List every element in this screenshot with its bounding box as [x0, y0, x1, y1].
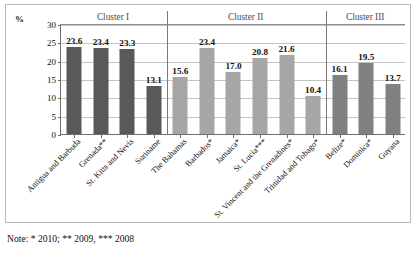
bar-value-label: 15.6 [172, 66, 188, 76]
y-axis-unit-label: % [15, 14, 24, 24]
x-axis-category-label-text: Guyana [376, 137, 401, 162]
cluster-header-3: Cluster III [325, 11, 405, 25]
bar-value-label: 17.0 [225, 61, 241, 71]
x-axis-category-label-text: St. Kitts and Nevis [85, 137, 136, 188]
bar-value-label: 20.8 [252, 47, 268, 57]
bar-value-label: 19.5 [358, 52, 374, 62]
bar[interactable] [67, 47, 82, 134]
y-axis-tick-label: 25 [47, 38, 56, 48]
bar-value-label: 23.4 [199, 37, 215, 47]
y-axis-tick-label: 20 [47, 57, 56, 67]
bar-slot: 23.6 [61, 25, 88, 134]
x-axis-category-label-text: Belize* [324, 137, 348, 161]
cluster-header-2: Cluster II [166, 11, 325, 25]
cluster-header-1: Cluster I [60, 11, 166, 25]
bar-value-label: 13.7 [385, 73, 401, 83]
x-axis-label-group: Antigua and BarbudaGrenada**St. Kitts an… [60, 137, 405, 221]
bar-value-label: 10.4 [305, 85, 321, 95]
bar-value-label: 21.6 [279, 44, 295, 54]
cluster-header-band: Cluster ICluster IICluster III [60, 11, 405, 25]
y-axis-tick-label: 5 [52, 112, 57, 122]
y-axis-tick-label: 0 [52, 130, 57, 140]
y-axis-tick-label: 15 [47, 75, 56, 85]
bar-value-label: 23.6 [66, 36, 82, 46]
y-axis-tick-mark [58, 135, 61, 136]
figure-note: Note: * 2010; ** 2009, *** 2008 [7, 233, 134, 244]
bar-value-label: 16.1 [332, 64, 348, 74]
chart-figure: % Cluster ICluster IICluster III 0510152… [5, 4, 411, 223]
bar-value-label: 13.1 [146, 75, 162, 85]
bar-value-label: 23.3 [119, 38, 135, 48]
x-axis-category-label-text: Antigua and Barbuda [26, 137, 83, 194]
y-axis-tick-label: 10 [47, 93, 56, 103]
bar-value-label: 23.4 [93, 37, 109, 47]
y-axis-tick-label: 30 [47, 20, 56, 30]
